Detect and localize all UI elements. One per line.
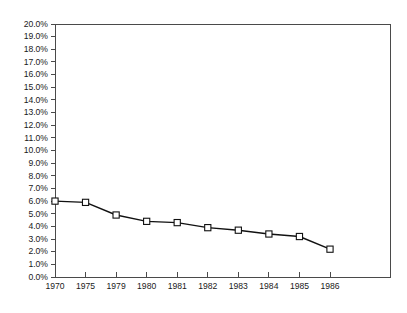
- y-tick-label: 7.0%: [28, 183, 48, 193]
- y-tick-label: 17.0%: [24, 57, 49, 67]
- x-tick-label: 1981: [168, 281, 187, 291]
- data-point-marker: [144, 218, 150, 224]
- y-tick-label: 10.0%: [24, 145, 49, 155]
- y-tick-label: 6.0%: [28, 196, 48, 206]
- data-point-marker: [205, 225, 211, 231]
- y-tick-label: 1.0%: [28, 259, 48, 269]
- y-tick-label: 2.0%: [28, 246, 48, 256]
- data-point-marker: [113, 212, 119, 218]
- y-tick-label: 13.0%: [24, 107, 49, 117]
- data-point-marker: [266, 231, 272, 237]
- y-tick-label: 20.0%: [24, 19, 49, 29]
- line-chart: 0.0%1.0%2.0%3.0%4.0%5.0%6.0%7.0%8.0%9.0%…: [0, 0, 407, 313]
- x-tick-label: 1979: [107, 281, 126, 291]
- x-tick-label: 1982: [198, 281, 217, 291]
- x-tick-label: 1985: [290, 281, 309, 291]
- y-tick-label: 16.0%: [24, 69, 49, 79]
- x-tick-label: 1984: [259, 281, 278, 291]
- data-point-marker: [52, 198, 58, 204]
- x-tick-label: 1970: [45, 281, 64, 291]
- chart-background: [0, 0, 407, 313]
- y-tick-label: 9.0%: [28, 158, 48, 168]
- y-tick-label: 5.0%: [28, 209, 48, 219]
- y-tick-label: 15.0%: [24, 82, 49, 92]
- data-point-marker: [327, 246, 333, 252]
- y-tick-label: 0.0%: [28, 272, 48, 282]
- x-tick-label: 1980: [137, 281, 156, 291]
- y-tick-label: 19.0%: [24, 31, 49, 41]
- y-tick-label: 11.0%: [24, 133, 48, 143]
- x-tick-label: 1983: [229, 281, 248, 291]
- data-point-marker: [296, 233, 302, 239]
- data-point-marker: [82, 199, 88, 205]
- y-tick-label: 12.0%: [24, 120, 49, 130]
- y-tick-label: 18.0%: [24, 44, 49, 54]
- data-point-marker: [235, 227, 241, 233]
- y-tick-label: 14.0%: [24, 95, 49, 105]
- data-point-marker: [174, 220, 180, 226]
- chart-container: 0.0%1.0%2.0%3.0%4.0%5.0%6.0%7.0%8.0%9.0%…: [0, 0, 407, 313]
- x-tick-label: 1975: [76, 281, 95, 291]
- y-tick-label: 3.0%: [28, 234, 48, 244]
- y-tick-label: 8.0%: [28, 171, 48, 181]
- y-axis-ticks: [51, 24, 55, 277]
- x-tick-label: 1986: [320, 281, 339, 291]
- y-tick-label: 4.0%: [28, 221, 48, 231]
